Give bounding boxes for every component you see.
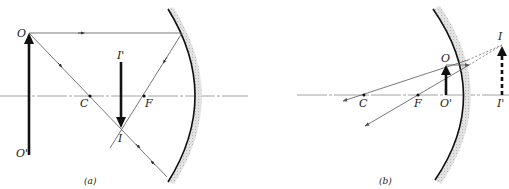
ray-parallel-b bbox=[365, 45, 502, 126]
virtual-image-arrow-b bbox=[497, 46, 507, 95]
concave-mirror-a bbox=[168, 9, 195, 182]
label-object-tip-a: O bbox=[17, 27, 26, 40]
label-image-tip-a: I bbox=[117, 132, 123, 145]
label-image-base-a: I' bbox=[116, 49, 124, 62]
center-point-a bbox=[88, 94, 91, 97]
label-focus-a: F bbox=[144, 97, 153, 110]
mirror-diagrams: O O' C F I' I (a) bbox=[0, 0, 509, 189]
image-arrow-a bbox=[116, 62, 126, 128]
label-center-a: C bbox=[80, 97, 89, 110]
label-center-b: C bbox=[359, 97, 368, 110]
label-image-tip-b: I bbox=[497, 30, 503, 43]
ray-parallel-a bbox=[29, 33, 182, 148]
label-focus-b: F bbox=[413, 97, 422, 110]
caption-a: (a) bbox=[84, 176, 97, 186]
caption-b: (b) bbox=[379, 176, 392, 186]
panel-b: O O' C F I I' (b) bbox=[297, 6, 509, 186]
mirror-backing-a bbox=[168, 7, 202, 184]
label-object-tip-b: O bbox=[441, 52, 450, 65]
object-arrow-b bbox=[441, 65, 451, 95]
panel-a: O O' C F I' I (a) bbox=[0, 7, 248, 186]
label-object-base-a: O' bbox=[16, 147, 28, 160]
label-object-base-b: O' bbox=[440, 97, 452, 110]
concave-mirror-b bbox=[433, 9, 464, 180]
object-arrow-a bbox=[24, 33, 34, 155]
label-image-base-b: I' bbox=[496, 97, 504, 110]
